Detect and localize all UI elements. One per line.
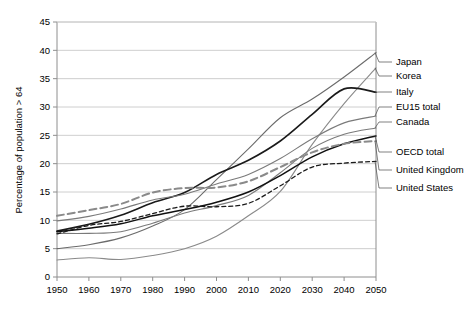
x-tick-label: 2000	[206, 284, 227, 295]
x-tick-label: 2020	[270, 284, 291, 295]
y-axis-title: Percentage of population > 64	[13, 86, 24, 213]
y-tick-label: 25	[39, 130, 50, 141]
legend-label-canada: Canada	[396, 116, 430, 127]
chart-figure: 051015202530354045 195019601970198019902…	[0, 0, 464, 314]
legend-label-korea: Korea	[396, 70, 422, 81]
leader-lines	[375, 53, 392, 188]
grid-lines	[57, 22, 376, 249]
leader-line	[375, 161, 392, 188]
y-tick-label: 40	[39, 45, 50, 56]
y-tick-label: 45	[39, 16, 50, 27]
leader-line	[375, 107, 392, 116]
x-tick-label: 1990	[174, 284, 195, 295]
y-tick-label: 10	[39, 215, 50, 226]
y-tick-label: 35	[39, 73, 50, 84]
x-tick-label: 2030	[302, 284, 323, 295]
x-tick-label: 1950	[46, 284, 67, 295]
x-tick-label: 1980	[142, 284, 163, 295]
legend-label-oecd-total: OECD total	[396, 146, 444, 157]
y-axis-ticks: 051015202530354045	[39, 16, 57, 282]
x-tick-label: 2040	[334, 284, 355, 295]
legend-label-italy: Italy	[396, 86, 414, 97]
series-line-canada	[57, 128, 376, 234]
legend-label-japan: Japan	[396, 56, 422, 67]
series-line-united-kingdom	[57, 141, 376, 216]
y-tick-label: 20	[39, 158, 50, 169]
x-tick-label: 1970	[110, 284, 131, 295]
x-axis-ticks: 1950196019701980199020002010202020302040…	[46, 277, 386, 295]
legend: JapanKoreaItalyEU15 totalCanadaOECD tota…	[396, 56, 464, 193]
y-tick-label: 15	[39, 186, 50, 197]
y-tick-label: 30	[39, 101, 50, 112]
series-line-japan	[57, 53, 376, 249]
line-chart: 051015202530354045 195019601970198019902…	[0, 0, 464, 314]
y-tick-label: 0	[45, 271, 50, 282]
legend-label-united-kingdom: United Kingdom	[396, 164, 464, 175]
x-tick-label: 2010	[238, 284, 259, 295]
x-tick-label: 1960	[78, 284, 99, 295]
leader-line	[375, 122, 392, 128]
series-line-italy	[57, 88, 376, 231]
data-series	[57, 53, 376, 260]
series-line-united-states	[57, 161, 376, 234]
leader-line	[375, 53, 392, 62]
x-tick-label: 2050	[365, 284, 386, 295]
leader-line	[375, 68, 392, 76]
leader-line	[375, 136, 392, 152]
y-tick-label: 5	[45, 243, 50, 254]
legend-label-eu15-total: EU15 total	[396, 101, 440, 112]
legend-label-united-states: United States	[396, 182, 453, 193]
